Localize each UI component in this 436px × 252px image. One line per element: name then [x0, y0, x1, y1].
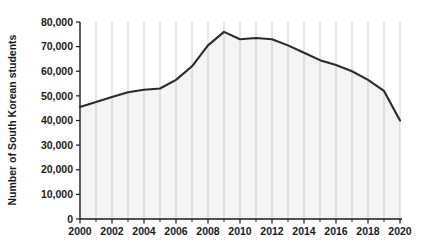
x-tick-label-2008: 2008 — [196, 225, 220, 237]
y-tick-label-80,000: 80,000 — [41, 16, 73, 28]
y-tick-label-40,000: 40,000 — [41, 114, 73, 126]
x-tick-label-2000: 2000 — [68, 225, 92, 237]
x-tick-label-2014: 2014 — [292, 225, 316, 237]
vertical-gridlines — [80, 22, 400, 219]
x-tick-label-2018: 2018 — [356, 225, 380, 237]
x-tick-label-2006: 2006 — [164, 225, 188, 237]
y-tick-label-0: 0 — [67, 213, 73, 225]
y-tick-label-30,000: 30,000 — [41, 139, 73, 151]
y-tick-labels: 010,00020,00030,00040,00050,00060,00070,… — [41, 16, 73, 225]
y-axis-title: Number of South Korean students — [6, 34, 18, 205]
x-tick-label-2020: 2020 — [388, 225, 412, 237]
chart-container: 010,00020,00030,00040,00050,00060,00070,… — [0, 0, 436, 252]
y-tick-label-50,000: 50,000 — [41, 90, 73, 102]
x-tick-label-2016: 2016 — [324, 225, 348, 237]
y-tick-label-10,000: 10,000 — [41, 188, 73, 200]
y-tick-label-60,000: 60,000 — [41, 65, 73, 77]
x-tick-label-2012: 2012 — [260, 225, 284, 237]
line-area-chart: 010,00020,00030,00040,00050,00060,00070,… — [0, 0, 436, 252]
y-tick-label-20,000: 20,000 — [41, 163, 73, 175]
x-tick-label-2002: 2002 — [100, 225, 124, 237]
x-tick-label-2010: 2010 — [228, 225, 252, 237]
y-tick-label-70,000: 70,000 — [41, 40, 73, 52]
x-tick-label-2004: 2004 — [132, 225, 156, 237]
x-tick-labels: 2000200220042006200820102012201420162018… — [68, 225, 412, 237]
x-axis-ticks — [80, 219, 400, 224]
